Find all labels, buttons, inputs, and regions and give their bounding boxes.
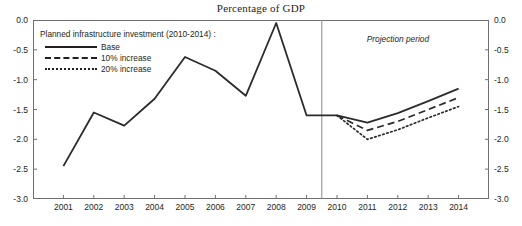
legend-swatch-dashed xyxy=(45,54,97,62)
y-axis-label-right: -1.5 xyxy=(494,106,509,115)
legend-header: Planned infrastructure investment (2010-… xyxy=(40,28,216,40)
x-axis-label: 2014 xyxy=(439,203,479,212)
chart-legend: Planned infrastructure investment (2010-… xyxy=(40,28,216,74)
y-axis-label-left: -1.0 xyxy=(0,76,28,85)
legend-swatch-solid xyxy=(45,43,97,51)
y-axis-label-right: -2.0 xyxy=(494,135,509,144)
legend-item-base: Base xyxy=(40,41,216,52)
y-axis-label-right: -2.5 xyxy=(494,165,509,174)
y-axis-label-left: -2.0 xyxy=(0,135,28,144)
y-axis-label-left: 0.0 xyxy=(0,16,28,25)
projection-period-label: Projection period xyxy=(367,34,429,44)
y-axis-label-left: -3.0 xyxy=(0,195,28,204)
y-axis-label-left: -1.5 xyxy=(0,106,28,115)
legend-label-20pct: 20% increase xyxy=(101,63,151,75)
legend-swatch-dotted xyxy=(45,65,97,73)
y-axis-label-right: -0.5 xyxy=(494,46,509,55)
y-axis-label-left: -2.5 xyxy=(0,165,28,174)
y-axis-label-left: -0.5 xyxy=(0,46,28,55)
legend-item-20pct: 20% increase xyxy=(40,63,216,74)
y-axis-label-right: -3.0 xyxy=(494,195,509,204)
y-axis-label-right: -1.0 xyxy=(494,76,509,85)
legend-item-10pct: 10% increase xyxy=(40,52,216,63)
chart-figure: Percentage of GDP Planned infrastructure… xyxy=(0,0,522,226)
y-axis-label-right: 0.0 xyxy=(494,16,506,25)
series-line-dotted xyxy=(337,107,459,140)
